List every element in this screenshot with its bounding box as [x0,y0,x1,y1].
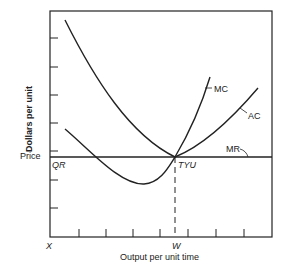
price-label: Price [20,151,41,161]
ac-leader [240,108,247,113]
w-label: W [172,241,181,251]
x-axis-label: Output per unit time [120,252,199,262]
mr-label: MR [226,144,240,154]
cost-curves-chart [0,0,284,273]
y-axis-label: Dollars per unit [24,86,34,152]
tyu-label: TYU [178,160,196,170]
mc-label: MC [214,84,228,94]
x-axis-ticks [79,229,244,237]
y-axis-ticks [50,38,58,208]
mr-leader [240,149,248,157]
ac-curve [65,20,258,157]
plot-frame [50,11,272,237]
ac-label: AC [248,111,261,121]
qr-label: QR [52,160,66,170]
x-origin-label: X [46,241,52,251]
